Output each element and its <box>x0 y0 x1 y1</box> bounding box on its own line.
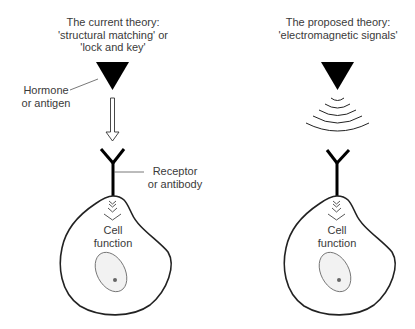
right-panel-title: The proposed theory: 'electromagnetic si… <box>274 16 402 41</box>
right-hormone-triangle <box>321 62 354 90</box>
left-hormone-triangle <box>96 62 129 90</box>
electromagnetic-waves-icon <box>306 98 369 131</box>
hormone-leader-line <box>70 79 98 90</box>
open-arrow-icon <box>106 98 119 141</box>
left-nucleolus <box>113 278 117 282</box>
right-cell-function-label: Cell function <box>312 224 362 249</box>
hormone-label-line-2: or antigen <box>18 97 74 110</box>
hormone-label: Hormone or antigen <box>18 84 74 109</box>
right-nucleolus <box>337 278 341 282</box>
left-cell-outline <box>60 196 171 315</box>
receptor-label-line-1: Receptor <box>144 165 206 178</box>
right-title-line-2: 'electromagnetic signals' <box>274 29 402 42</box>
left-title-line-2: 'structural matching' or <box>40 29 186 42</box>
receptor-label: Receptor or antibody <box>144 165 206 190</box>
left-title-line-1: The current theory: <box>40 16 186 29</box>
left-cell-label-line-1: Cell <box>88 224 138 237</box>
hormone-label-line-1: Hormone <box>18 84 74 97</box>
left-panel-title: The current theory: 'structural matching… <box>40 16 186 54</box>
left-cell-function-label: Cell function <box>88 224 138 249</box>
left-title-line-3: 'lock and key' <box>40 41 186 54</box>
receptor-label-line-2: or antibody <box>144 178 206 191</box>
right-receptor-y <box>327 150 349 196</box>
right-cell-label-line-2: function <box>312 237 362 250</box>
right-cell-outline <box>284 196 395 315</box>
left-receptor-y <box>101 149 124 196</box>
right-title-line-1: The proposed theory: <box>274 16 402 29</box>
left-cell-label-line-2: function <box>88 237 138 250</box>
right-cell-label-line-1: Cell <box>312 224 362 237</box>
